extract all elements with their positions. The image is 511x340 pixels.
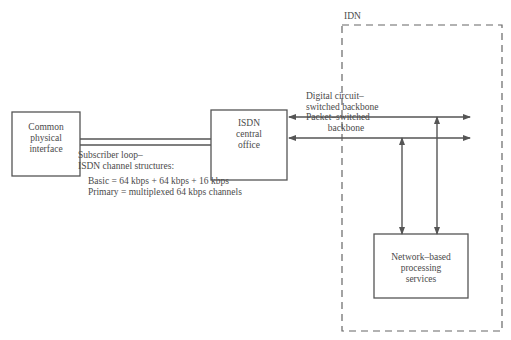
diagram-canvas <box>0 0 511 340</box>
common-interface-label: Common physical interface <box>12 122 80 155</box>
subscriber-loop-basic: Basic = 64 kbps + 64 kbps + 16 kbps <box>88 176 242 187</box>
isdn-office-line-2: central <box>211 129 287 140</box>
subscriber-loop-primary: Primary = multiplexed 64 kbps channels <box>88 187 242 198</box>
packet-backbone-line-2: backbone <box>306 123 386 134</box>
network-services-line-1: Network–based <box>374 252 468 263</box>
isdn-office-label: ISDN central office <box>211 118 287 151</box>
isdn-office-line-1: ISDN <box>211 118 287 129</box>
packet-backbone-line-1: Packet–switched <box>306 112 386 123</box>
common-interface-line-1: Common <box>12 122 80 133</box>
network-services-line-3: services <box>374 274 468 285</box>
idn-boundary <box>342 25 502 331</box>
packet-backbone-label: Packet–switched backbone <box>306 112 386 134</box>
common-interface-line-3: interface <box>12 144 80 155</box>
network-services-label: Network–based processing services <box>374 252 468 285</box>
digital-backbone-line-1: Digital circuit– <box>306 91 379 102</box>
subscriber-loop-label: Subscriber loop– ISDN channel structures… <box>78 150 242 198</box>
idn-label: IDN <box>344 11 361 22</box>
common-interface-line-2: physical <box>12 133 80 144</box>
subscriber-loop-title-2: ISDN channel structures: <box>78 161 242 172</box>
network-services-line-2: processing <box>374 263 468 274</box>
subscriber-loop-title-1: Subscriber loop– <box>78 150 242 161</box>
digital-backbone-label: Digital circuit– switched backbone <box>306 91 379 113</box>
